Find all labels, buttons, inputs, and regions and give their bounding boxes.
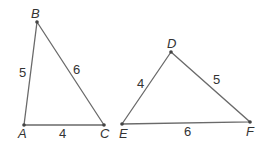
similar-triangles-diagram: B A C 5 6 4 D E F 4 5 6 xyxy=(0,0,268,146)
vertex-d-label: D xyxy=(167,36,176,51)
side-ef-length: 6 xyxy=(184,124,191,139)
side-de-length: 4 xyxy=(137,76,144,91)
vertex-a-label: A xyxy=(17,126,27,141)
side-df-length: 5 xyxy=(213,72,220,87)
triangle-abc-outline xyxy=(24,22,104,125)
side-bc-length: 6 xyxy=(73,62,80,77)
vertex-e-label: E xyxy=(119,126,128,141)
triangle-def: D E F 4 5 6 xyxy=(119,36,255,141)
vertex-f-label: F xyxy=(246,124,255,139)
side-ab-length: 5 xyxy=(19,65,26,80)
triangle-abc: B A C 5 6 4 xyxy=(17,6,110,141)
side-ac-length: 4 xyxy=(59,126,66,141)
vertex-c-label: C xyxy=(100,126,110,141)
vertex-b-label: B xyxy=(31,6,40,21)
